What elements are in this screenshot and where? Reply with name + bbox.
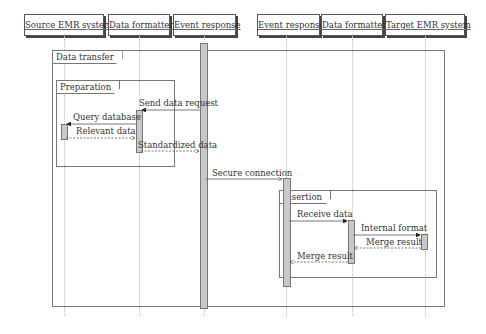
msg-query-database: Query database <box>73 112 141 122</box>
msg-receive-data: Receive data <box>297 209 352 219</box>
msg-merge-result-target: Merge result <box>366 237 422 247</box>
msg-relevant-data: Relevant data <box>76 126 136 136</box>
msg-secure-connection: Secure connection <box>212 168 292 178</box>
message-arrows <box>0 0 486 334</box>
msg-merge-result-formatter: Merge result <box>297 251 353 261</box>
msg-internal-format: Internal format <box>361 223 427 233</box>
msg-send-data-request: Send data request <box>139 98 218 108</box>
msg-standardized-data: Standardized data <box>138 140 217 150</box>
